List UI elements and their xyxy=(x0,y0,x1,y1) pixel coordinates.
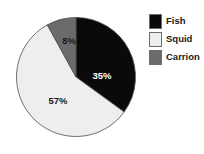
pie-label-carrion: 8% xyxy=(62,35,76,46)
pie-chart-figure: 35% 57% 8% Fish Squid Carrion xyxy=(0,0,204,154)
legend-item-carrion: Carrion xyxy=(149,48,203,66)
pie-label-squid: 57% xyxy=(48,95,68,106)
legend-item-squid: Squid xyxy=(149,30,203,48)
pie-slices xyxy=(16,18,135,137)
pie-chart-svg: 35% 57% 8% xyxy=(16,17,136,137)
legend-swatch-carrion xyxy=(149,50,162,65)
legend-swatch-fish xyxy=(149,14,162,29)
legend-label-carrion: Carrion xyxy=(166,52,200,62)
legend-label-squid: Squid xyxy=(166,34,192,44)
legend-swatch-squid xyxy=(149,32,162,47)
pie-chart-plot-area: 35% 57% 8% xyxy=(16,17,136,137)
pie-label-fish: 35% xyxy=(92,70,112,81)
chart-legend: Fish Squid Carrion xyxy=(149,12,203,66)
legend-label-fish: Fish xyxy=(166,16,186,26)
legend-item-fish: Fish xyxy=(149,12,203,30)
